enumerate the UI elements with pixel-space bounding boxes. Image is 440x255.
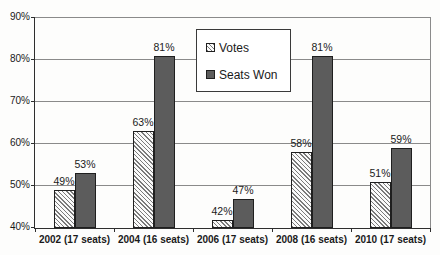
bar-value-label: 81% (143, 41, 185, 54)
bar-votes (212, 220, 233, 228)
bar-value-label: 59% (380, 133, 422, 146)
bar-votes (133, 131, 154, 228)
x-axis-tick (193, 228, 194, 232)
x-axis-category-label: 2008 (16 seats) (267, 233, 357, 247)
x-axis-category-label: 2006 (17 seats) (188, 233, 278, 247)
legend-label-votes: Votes (219, 41, 249, 55)
bar-value-label: 81% (301, 41, 343, 54)
x-axis-tick (35, 228, 36, 232)
bar-seats-won (75, 173, 96, 228)
x-axis-category-label: 2004 (16 seats) (109, 233, 199, 247)
bar-votes (370, 182, 391, 228)
x-axis-category-label: 2010 (17 seats) (346, 233, 436, 247)
x-axis-tick (272, 228, 273, 232)
bar-value-label: 47% (222, 184, 264, 197)
y-axis-tick (31, 185, 35, 186)
bar-votes (54, 190, 75, 228)
y-axis-tick-label: 70% (0, 95, 30, 107)
x-axis-tick (430, 228, 431, 232)
y-axis-tick (31, 143, 35, 144)
bar-seats-won (391, 148, 412, 228)
bar-votes (291, 152, 312, 228)
y-axis-tick-label: 40% (0, 221, 30, 233)
bar-value-label: 53% (64, 158, 106, 171)
legend-item-seats-won: Seats Won (206, 61, 290, 88)
y-axis-tick-label: 90% (0, 11, 30, 23)
votes-swatch-icon (206, 43, 215, 52)
y-axis-tick (31, 17, 35, 18)
y-axis-tick-label: 50% (0, 179, 30, 191)
legend: Votes Seats Won (196, 29, 291, 92)
legend-item-votes: Votes (206, 34, 290, 61)
bar-seats-won (233, 199, 254, 228)
legend-label-seats-won: Seats Won (219, 68, 277, 82)
x-axis-category-label: 2002 (17 seats) (30, 233, 120, 247)
y-axis-tick-label: 80% (0, 53, 30, 65)
y-axis-tick (31, 101, 35, 102)
x-axis-tick (351, 228, 352, 232)
bar-seats-won (154, 56, 175, 228)
gridline (35, 101, 430, 102)
seats-won-swatch-icon (206, 70, 215, 79)
gridline (35, 143, 430, 144)
bar-chart: 49%53%63%81%42%47%58%81%51%59% Votes Sea… (0, 0, 440, 255)
y-axis-tick (31, 59, 35, 60)
bar-seats-won (312, 56, 333, 228)
x-axis-tick (114, 228, 115, 232)
y-axis-tick-label: 60% (0, 137, 30, 149)
